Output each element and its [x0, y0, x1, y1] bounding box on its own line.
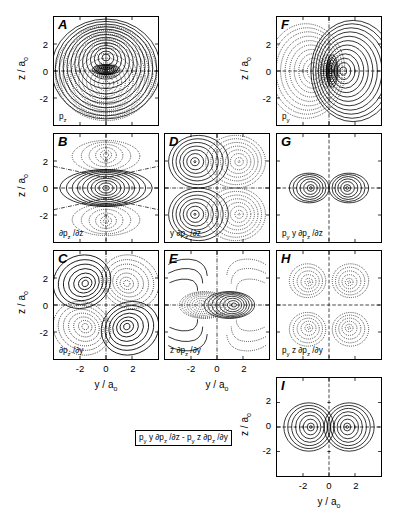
contour-plot-B [54, 134, 158, 242]
contour-plot-D [165, 134, 269, 242]
node-line [54, 251, 158, 359]
xtick-E-0: 0 [206, 363, 228, 374]
figure-canvas: A pz [0, 0, 400, 515]
ytick-B-2: 2 [24, 156, 48, 167]
ytick-A-m2: -2 [22, 93, 48, 104]
xtick-I-0: 0 [318, 480, 340, 491]
contour-plot-A [54, 17, 158, 125]
ytick-A-2: 2 [24, 39, 48, 50]
panel-letter-I: I [281, 379, 285, 392]
contour-plot-I [277, 378, 381, 476]
ytick-I-0: 0 [247, 420, 271, 431]
ytick-F-m2: -2 [245, 93, 271, 104]
ytick-I-2: 2 [247, 395, 271, 406]
ytick-C-0: 0 [24, 300, 48, 311]
panel-letter-F: F [281, 18, 289, 31]
panel-letter-A: A [58, 18, 67, 31]
x-axis-label-col2: y / ao [187, 379, 247, 392]
xtick-C-2: 2 [122, 363, 144, 374]
panel-letter-E: E [169, 252, 178, 265]
contour-plot-F [277, 17, 381, 125]
panel-H: H py z ∂pz /∂y [276, 250, 382, 360]
ytick-C-2: 2 [24, 273, 48, 284]
ytick-A-0: 0 [24, 66, 48, 77]
panel-I-boxed-function: py y ∂pz /∂z - py z ∂pz /∂y [135, 430, 232, 446]
xtick-C-m2: -2 [69, 363, 91, 374]
panel-letter-D: D [169, 135, 178, 148]
panel-function-D: y ∂pz /∂z [170, 229, 201, 240]
ytick-F-2: 2 [247, 39, 271, 50]
panel-function-B: ∂pz /∂z [59, 229, 83, 240]
panel-C: C ∂pz /∂y [53, 250, 159, 360]
xtick-E-2: 2 [233, 363, 255, 374]
ytick-B-m2: -2 [22, 210, 48, 221]
node-line [165, 251, 269, 359]
panel-letter-H: H [281, 252, 290, 265]
xtick-I-2: 2 [345, 480, 367, 491]
ytick-C-m2: -2 [22, 327, 48, 338]
panel-G: G py y ∂pz /∂z [276, 133, 382, 243]
x-axis-label-col1: y / ao [76, 379, 136, 392]
panel-function-C: ∂pz /∂y [59, 346, 83, 357]
panel-B: B ∂pz /∂z [53, 133, 159, 243]
panel-A: A pz [53, 16, 159, 126]
ytick-I-m2: -2 [245, 445, 271, 456]
panel-E: E z ∂pz /∂y [164, 250, 270, 360]
panel-letter-B: B [58, 135, 67, 148]
contour-plot-G [277, 134, 381, 242]
panel-D: D y ∂pz /∂z [164, 133, 270, 243]
panel-function-G: py y ∂pz /∂z [282, 229, 323, 240]
x-axis-label-col3: y / ao [299, 496, 359, 509]
contour-plot-C [54, 251, 158, 359]
panel-I: I [276, 377, 382, 477]
xtick-C-0: 0 [95, 363, 117, 374]
panel-function-F: py [282, 112, 290, 123]
ytick-B-0: 0 [24, 183, 48, 194]
xtick-I-m2: -2 [292, 480, 314, 491]
panel-function-H: py z ∂pz /∂y [282, 346, 323, 357]
ytick-F-0: 0 [247, 66, 271, 77]
contour-plot-E [165, 251, 269, 359]
panel-letter-C: C [58, 252, 67, 265]
panel-F: F py [276, 16, 382, 126]
panel-letter-G: G [281, 135, 291, 148]
contour-plot-H [277, 251, 381, 359]
xtick-E-m2: -2 [180, 363, 202, 374]
panel-function-A: pz [59, 112, 67, 123]
panel-function-E: z ∂pz /∂y [170, 346, 201, 357]
